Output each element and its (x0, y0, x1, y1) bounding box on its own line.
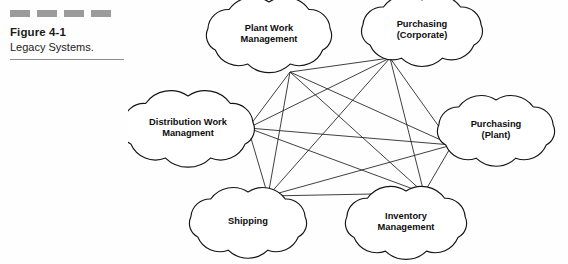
decorative-dash-rule (8, 10, 128, 17)
cloud-node-distribution-work-managment[interactable]: Distribution WorkManagment (128, 91, 254, 167)
connection-edge (268, 58, 390, 196)
cloud-node-inventory-management[interactable]: InventoryManagement (345, 186, 466, 259)
connection-edge (290, 72, 452, 145)
caption-dash (91, 10, 111, 17)
figure-caption-block: Figure 4-1 Legacy Systems. (8, 10, 128, 60)
cloud-node-label: Shipping (228, 216, 268, 226)
caption-dash (10, 10, 30, 17)
figure-number: Figure 4-1 (8, 25, 128, 39)
connection-edge (248, 72, 290, 128)
connection-edge (390, 58, 424, 193)
connection-edge (268, 72, 290, 196)
cloud-node-purchasing-plant[interactable]: Purchasing(Plant) (437, 96, 554, 167)
caption-divider (10, 59, 124, 60)
cloud-node-layer: Plant WorkManagementPurchasing(Corporate… (128, 0, 555, 259)
caption-dash (64, 10, 84, 17)
cloud-node-label: Purchasing(Corporate) (397, 19, 448, 40)
cloud-node-plant-work-management[interactable]: Plant WorkManagement (206, 0, 331, 73)
legacy-systems-network-diagram: Plant WorkManagementPurchasing(Corporate… (128, 0, 568, 264)
caption-dash (37, 10, 57, 17)
figure-page: Figure 4-1 Legacy Systems. Plant WorkMan… (0, 0, 568, 264)
figure-title: Legacy Systems. (8, 40, 128, 54)
cloud-node-purchasing-corporate[interactable]: Purchasing(Corporate) (362, 0, 483, 66)
connection-edge (424, 145, 452, 193)
cloud-node-label: InventoryManagement (378, 211, 435, 232)
connection-edge-layer (248, 58, 452, 196)
cloud-node-shipping[interactable]: Shipping (189, 188, 306, 259)
connection-edge (290, 72, 424, 193)
cloud-node-label: Plant WorkManagement (241, 23, 298, 44)
